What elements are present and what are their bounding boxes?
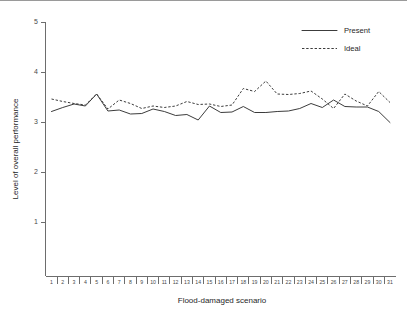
y-tick-label-3: 3 <box>34 118 38 125</box>
y-axis-title: Level of overall performance <box>11 98 20 199</box>
y-axis-tick-labels: 5 4 3 2 1 <box>34 18 38 225</box>
x-tick-label-14: 14 <box>195 279 201 285</box>
x-tick-label-26: 26 <box>331 279 337 285</box>
x-tick-label-21: 21 <box>274 279 280 285</box>
x-tick-label-6: 6 <box>106 279 109 285</box>
x-tick-label-31: 31 <box>387 279 393 285</box>
y-axis-ticks <box>41 23 46 223</box>
y-tick-label-5: 5 <box>34 18 38 25</box>
chart-legend: Present Ideal <box>302 26 371 53</box>
x-tick-label-25: 25 <box>319 279 325 285</box>
x-tick-label-20: 20 <box>263 279 269 285</box>
x-tick-label-23: 23 <box>297 279 303 285</box>
x-tick-label-15: 15 <box>207 279 213 285</box>
x-tick-label-30: 30 <box>376 279 382 285</box>
chart-figure: 5 4 3 2 1 123456789101112131415161718192… <box>0 0 407 313</box>
x-tick-label-3: 3 <box>73 279 76 285</box>
line-chart: 5 4 3 2 1 123456789101112131415161718192… <box>0 0 407 313</box>
y-tick-label-2: 2 <box>34 168 38 175</box>
x-tick-label-24: 24 <box>308 279 314 285</box>
x-tick-label-7: 7 <box>118 279 121 285</box>
x-tick-label-28: 28 <box>353 279 359 285</box>
x-tick-label-4: 4 <box>84 279 87 285</box>
x-tick-label-2: 2 <box>61 279 64 285</box>
x-tick-label-17: 17 <box>229 279 235 285</box>
series-line-present <box>52 94 391 123</box>
x-tick-label-27: 27 <box>342 279 348 285</box>
x-tick-label-12: 12 <box>173 279 179 285</box>
x-tick-label-1: 1 <box>50 279 53 285</box>
x-tick-label-13: 13 <box>184 279 190 285</box>
x-tick-label-18: 18 <box>240 279 246 285</box>
x-tick-label-22: 22 <box>286 279 292 285</box>
x-tick-label-10: 10 <box>150 279 156 285</box>
x-tick-label-8: 8 <box>129 279 132 285</box>
x-tick-label-9: 9 <box>140 279 143 285</box>
y-tick-label-4: 4 <box>34 68 38 75</box>
x-tick-label-11: 11 <box>162 279 167 285</box>
y-tick-label-1: 1 <box>34 218 38 225</box>
x-tick-label-19: 19 <box>252 279 258 285</box>
x-tick-label-29: 29 <box>365 279 371 285</box>
x-axis-tick-labels: 1234567891011121314151617181920212223242… <box>50 279 393 285</box>
series-line-ideal <box>52 81 391 109</box>
x-axis-title: Flood-damaged scenario <box>178 296 267 305</box>
legend-label-present: Present <box>344 26 371 35</box>
x-tick-label-5: 5 <box>95 279 98 285</box>
x-tick-label-16: 16 <box>218 279 224 285</box>
legend-label-ideal: Ideal <box>344 44 361 53</box>
